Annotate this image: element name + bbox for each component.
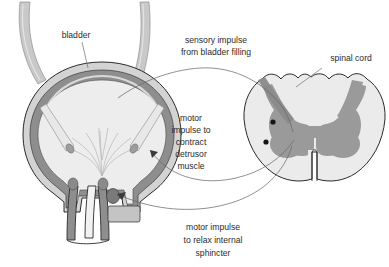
sensory-label-line2: from bladder filling (181, 47, 251, 57)
spinal-cord-label: spinal cord (330, 53, 372, 63)
motor-detrusor-line5: muscle (177, 161, 204, 171)
motor-sphincter-line2: to relax internal (184, 235, 243, 245)
motor-detrusor-line4: detrusor (175, 149, 207, 159)
spinal-cord-section (244, 74, 385, 181)
motor-detrusor-line3: contract (176, 137, 207, 147)
motor-neuron-dot (263, 139, 268, 144)
motor-sphincter-line3: sphincter (196, 248, 231, 258)
sensory-neuron-dot (270, 119, 275, 124)
motor-detrusor-line2: impulse to (171, 125, 210, 135)
motor-sphincter-line1: motor impulse (186, 222, 240, 232)
motor-detrusor-line1: motor (180, 113, 202, 123)
urethra (67, 186, 109, 244)
diagram-canvas: bladder sensory impulse from bladder fil… (0, 0, 389, 267)
micturition-reflex-figure: bladder sensory impulse from bladder fil… (0, 0, 389, 267)
bladder-label: bladder (62, 30, 91, 40)
sensory-label-line1: sensory impulse (185, 35, 247, 45)
ureter-left (19, 2, 46, 84)
